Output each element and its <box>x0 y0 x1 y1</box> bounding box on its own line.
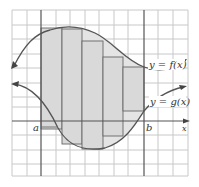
label-b: b <box>146 122 152 133</box>
area-between-curves-diagram: y = f(x) y = g(x) a b x <box>0 0 199 187</box>
rectangle-2 <box>62 29 82 144</box>
label-f: y = f(x) <box>148 59 187 70</box>
label-g: y = g(x) <box>149 96 190 107</box>
x-axis-arrow-icon <box>183 119 190 124</box>
rectangle-4 <box>103 57 123 136</box>
label-a: a <box>33 122 39 133</box>
rectangle-1 <box>41 28 62 129</box>
label-x-axis: x <box>182 124 187 133</box>
diagram-canvas: y = f(x) y = g(x) a b x <box>0 0 199 187</box>
curve-g-right-arrow-icon <box>179 85 187 90</box>
rectangle-3 <box>82 41 103 149</box>
rectangle-5 <box>123 67 144 111</box>
